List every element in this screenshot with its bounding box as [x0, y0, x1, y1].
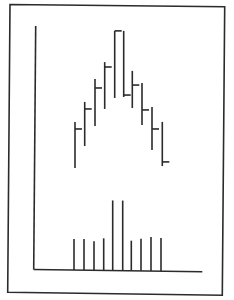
- high-low-close-chart: [0, 0, 234, 300]
- x-axis: [34, 270, 203, 272]
- volume-bars-group: [74, 200, 161, 271]
- y-axis: [34, 26, 36, 270]
- chart-frame: [8, 5, 225, 296]
- price-bars-group: [75, 31, 169, 168]
